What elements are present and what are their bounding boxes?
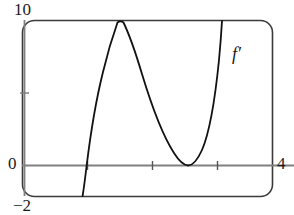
y-axis-max-label: 10 <box>14 1 31 18</box>
graph-figure: 10 0 −2 4 f′ <box>0 0 294 215</box>
y-axis-zero-label: 0 <box>8 155 17 172</box>
x-axis-max-label: 4 <box>277 155 286 172</box>
plot-area <box>0 0 294 215</box>
curve-label-f-prime: f′ <box>232 45 241 63</box>
y-axis-min-label: −2 <box>13 197 31 214</box>
